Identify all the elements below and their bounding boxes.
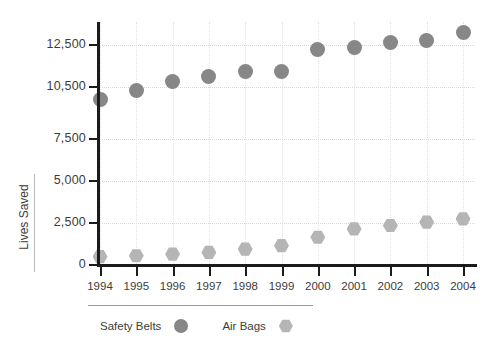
gridline-horizontal [99, 139, 475, 140]
gridline-horizontal [99, 181, 475, 182]
y-axis-tick-label: 10,500 [28, 79, 86, 93]
y-axis-tick-label: 0 [28, 257, 86, 271]
y-axis-tick [89, 44, 98, 46]
data-point-safety-belts [310, 42, 325, 57]
y-axis-title-wrap: Lives Saved [12, 168, 34, 276]
gridline-vertical [245, 22, 246, 266]
data-point-air-bags [310, 230, 325, 245]
data-point-safety-belts [419, 33, 434, 48]
data-point-safety-belts [129, 83, 144, 98]
data-point-safety-belts [93, 92, 108, 107]
x-axis-tick [282, 267, 284, 276]
y-axis-line [97, 22, 100, 266]
data-point-air-bags [383, 218, 398, 233]
x-axis-tick [427, 267, 429, 276]
gridline-vertical [318, 22, 319, 266]
y-axis-title: Lives Saved [17, 163, 31, 271]
x-axis-tick [209, 267, 211, 276]
lives-saved-scatter-chart: 02,5005,0007,50010,50012,500 19941995199… [0, 0, 501, 345]
x-axis-tick [463, 267, 465, 276]
x-axis-line [97, 264, 477, 267]
gridline-vertical [136, 22, 137, 266]
x-axis-tick [136, 267, 138, 276]
chart-legend: Safety BeltsAir Bags [88, 314, 313, 338]
data-point-safety-belts [201, 69, 216, 84]
legend-marker-air-bags-icon [279, 319, 293, 333]
data-point-air-bags [238, 242, 253, 257]
gridline-vertical [282, 22, 283, 266]
y-axis-tick [89, 222, 98, 224]
legend-label-air-bags: Air Bags [222, 320, 265, 332]
gridline-vertical [173, 22, 174, 266]
plot-area [99, 22, 475, 266]
data-point-air-bags [201, 245, 216, 260]
data-point-air-bags [129, 248, 144, 263]
data-point-safety-belts [274, 64, 289, 79]
x-axis-tick [245, 267, 247, 276]
legend-item-safety-belts[interactable]: Safety Belts [100, 319, 188, 333]
y-axis-tick [89, 138, 98, 140]
x-axis-tick [390, 267, 392, 276]
data-point-safety-belts [347, 40, 362, 55]
gridline-vertical [100, 22, 101, 266]
legend-divider [88, 305, 313, 306]
data-point-air-bags [456, 211, 471, 226]
data-point-air-bags [419, 215, 434, 230]
legend-marker-safety-belts-icon [174, 319, 188, 333]
legend-item-air-bags[interactable]: Air Bags [222, 319, 292, 333]
data-point-air-bags [165, 247, 180, 262]
y-axis-tick-label: 7,500 [28, 131, 86, 145]
x-axis-tick-label: 2004 [440, 280, 486, 292]
y-axis-tick [89, 264, 98, 266]
x-axis-tick [318, 267, 320, 276]
x-axis-tick [100, 267, 102, 276]
y-axis-tick-label: 5,000 [28, 173, 86, 187]
data-point-safety-belts [383, 35, 398, 50]
y-axis-tick-label: 2,500 [28, 215, 86, 229]
gridline-vertical [427, 22, 428, 266]
data-point-safety-belts [238, 64, 253, 79]
gridline-horizontal [99, 45, 475, 46]
x-axis-tick [354, 267, 356, 276]
y-axis-title-rule [34, 174, 35, 272]
y-axis-tick-label: 12,500 [28, 37, 86, 51]
gridline-horizontal [99, 223, 475, 224]
x-axis-tick [173, 267, 175, 276]
gridline-vertical [463, 22, 464, 266]
data-point-safety-belts [456, 25, 471, 40]
y-axis-tick [89, 180, 98, 182]
legend-label-safety-belts: Safety Belts [100, 320, 161, 332]
data-point-air-bags [93, 249, 108, 264]
y-axis-tick [89, 86, 98, 88]
data-point-air-bags [274, 238, 289, 253]
gridline-vertical [209, 22, 210, 266]
gridline-horizontal [99, 87, 475, 88]
